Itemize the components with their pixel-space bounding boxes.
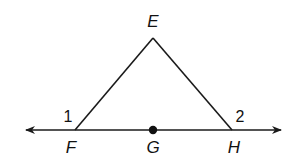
label-angle-2: 2 xyxy=(236,108,245,125)
point-g-dot xyxy=(149,126,157,134)
segment-eh xyxy=(153,38,232,130)
label-g: G xyxy=(146,138,159,157)
label-h: H xyxy=(228,138,241,157)
segment-ef xyxy=(75,38,153,130)
triangle-diagram: E F G H 1 2 xyxy=(0,0,293,164)
label-f: F xyxy=(66,138,78,157)
label-angle-1: 1 xyxy=(64,108,73,125)
label-e: E xyxy=(147,12,159,31)
